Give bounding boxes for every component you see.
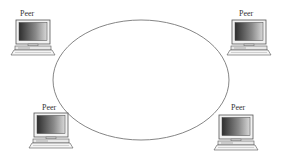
diagram-svg: Peer Peer Peer Peer (0, 0, 282, 157)
desktop-computer-icon (227, 20, 271, 55)
peer-label: Peer (239, 9, 254, 18)
desktop-computer-icon (29, 113, 73, 148)
desktop-computer-icon (214, 115, 258, 150)
peer-label: Peer (42, 103, 57, 112)
peer-label: Peer (231, 103, 246, 112)
peer-top-left: Peer (11, 9, 55, 55)
network-ring (53, 20, 229, 140)
peer-bottom-right: Peer (214, 103, 258, 150)
peer-label: Peer (20, 9, 35, 18)
p2p-diagram: Peer Peer Peer Peer (0, 0, 282, 157)
peer-bottom-left: Peer (29, 103, 73, 148)
desktop-computer-icon (11, 20, 55, 55)
peer-top-right: Peer (227, 9, 271, 55)
